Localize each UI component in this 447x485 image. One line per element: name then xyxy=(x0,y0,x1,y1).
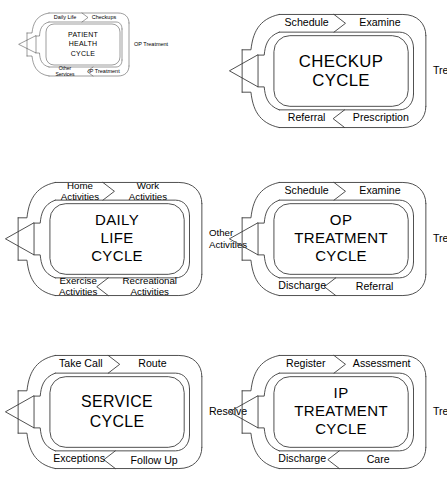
label-right: OP Treatment xyxy=(134,41,169,47)
label-bottom-right: Referral xyxy=(356,280,394,292)
core-line-2: TREATMENT xyxy=(294,229,388,246)
cycle-graphic: PATIENT HEALTH CYCLE Daily Life Checkups… xyxy=(18,2,138,87)
core-line-2: CYCLE xyxy=(90,413,145,430)
cycle-graphic: IP TREATMENT CYCLE Register Assessment T… xyxy=(228,343,440,481)
label-bottom-left: Discharge xyxy=(278,452,326,464)
label-bottom-right: Prescription xyxy=(353,111,409,123)
label-top-right: Examine xyxy=(359,16,400,28)
cycle-service-cycle[interactable]: SERVICE CYCLE Take Call Route Resolve Fo… xyxy=(4,343,216,481)
core-line-3: CYCLE xyxy=(315,247,367,264)
label-top-right: Route xyxy=(138,357,166,369)
label-top-right-a: Work xyxy=(137,180,160,191)
label-right: Treatment xyxy=(433,232,447,244)
core-line-1: IP xyxy=(334,384,349,401)
cycle-patient-health-cycle[interactable]: PATIENT HEALTH CYCLE Daily Life Checkups… xyxy=(18,2,138,87)
label-bottom-left: Exceptions xyxy=(53,452,105,464)
label-top-left: Daily Life xyxy=(54,14,77,20)
label-top-left-a: Home xyxy=(67,180,93,191)
core-line-2: LIFE xyxy=(101,229,134,246)
diagram-canvas: PATIENT HEALTH CYCLE Daily Life Checkups… xyxy=(0,0,447,485)
label-bottom-right: Follow Up xyxy=(131,454,178,466)
label-bottom-right: IP Treatment xyxy=(88,68,120,74)
label-top-left: Schedule xyxy=(285,16,329,28)
label-bottom-right-a: Recreational xyxy=(123,275,177,286)
label-top-left: Register xyxy=(286,357,326,369)
label-right: Treatment xyxy=(433,64,447,76)
cycle-op-treatment-cycle[interactable]: OP TREATMENT CYCLE Schedule Examine Trea… xyxy=(228,170,440,308)
core-line-1: CHECKUP xyxy=(299,52,383,71)
core-line-2: HEALTH xyxy=(69,40,97,47)
label-right: Treatment xyxy=(433,405,447,417)
label-bottom-left: Discharge xyxy=(278,279,326,291)
label-bottom-left-b: Activities xyxy=(59,286,97,297)
label-top-right-b: Activities xyxy=(129,191,167,202)
label-top-right: Examine xyxy=(359,184,400,196)
cycle-graphic: OP TREATMENT CYCLE Schedule Examine Trea… xyxy=(228,170,440,308)
label-top-left: Schedule xyxy=(285,184,329,196)
cycle-graphic: CHECKUP CYCLE Schedule Examine Treatment… xyxy=(228,2,440,140)
label-bottom-left: Referral xyxy=(288,111,326,123)
label-bottom-left-a: Exercise xyxy=(60,275,97,286)
cycle-graphic: SERVICE CYCLE Take Call Route Resolve Fo… xyxy=(4,343,216,481)
label-top-left: Take Call xyxy=(59,357,103,369)
core-line-2: CYCLE xyxy=(312,71,370,90)
core-line-1: SERVICE xyxy=(81,393,153,410)
core-line-1: OP xyxy=(330,211,352,228)
cycle-graphic: DAILY LIFE CYCLE Home Activities Work Ac… xyxy=(4,170,216,308)
core-line-1: PATIENT xyxy=(68,31,98,38)
label-bottom-right: Care xyxy=(367,453,390,465)
core-line-3: CYCLE xyxy=(71,50,95,57)
core-line-3: CYCLE xyxy=(91,247,143,264)
core-line-2: TREATMENT xyxy=(294,402,388,419)
label-bottom-left-b: Services xyxy=(55,71,75,77)
cycle-daily-life-cycle[interactable]: DAILY LIFE CYCLE Home Activities Work Ac… xyxy=(4,170,216,308)
label-bottom-right-b: Activities xyxy=(131,286,169,297)
cycle-checkup-cycle[interactable]: CHECKUP CYCLE Schedule Examine Treatment… xyxy=(228,2,440,140)
cycle-ip-treatment-cycle[interactable]: IP TREATMENT CYCLE Register Assessment T… xyxy=(228,343,440,481)
label-top-right: Checkups xyxy=(92,14,117,20)
core-line-3: CYCLE xyxy=(315,420,367,437)
label-bottom-left-a: Other xyxy=(59,65,72,71)
label-top-left-b: Activities xyxy=(61,191,99,202)
label-top-right: Assessment xyxy=(353,357,411,369)
core-line-1: DAILY xyxy=(95,211,139,228)
